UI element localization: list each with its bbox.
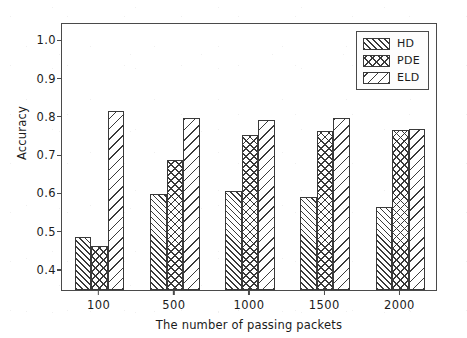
- bar-chart-figure: Accuracy 0.40.50.60.70.80.91.0 HDPDEELD …: [0, 0, 467, 338]
- legend-label: ELD: [397, 72, 419, 84]
- bar-eld-2000: [409, 129, 426, 290]
- bar-eld-1500: [333, 118, 350, 290]
- x-axis-tick-mark: [248, 291, 249, 295]
- bar-pde-1000: [242, 135, 259, 290]
- x-axis-tick-label: 100: [87, 298, 110, 312]
- x-axis-tick-mark: [173, 291, 174, 295]
- x-axis-tick: 1500: [309, 291, 340, 312]
- bar-hd-2000: [376, 207, 393, 290]
- legend-item-pde[interactable]: PDE: [363, 54, 420, 67]
- x-axis-tick-label: 2000: [384, 298, 415, 312]
- bar-hd-1000: [225, 191, 242, 290]
- legend-label: HD: [397, 38, 414, 50]
- y-axis-tick-group: 0.40.50.60.70.80.91.0: [0, 23, 61, 291]
- bar-hd-500: [150, 194, 167, 290]
- bar-pde-100: [91, 246, 108, 290]
- x-axis-tick: 500: [162, 291, 185, 312]
- x-axis-title: The number of passing packets: [61, 318, 437, 332]
- x-axis-tick-label: 500: [162, 298, 185, 312]
- x-axis-tick-label: 1000: [234, 298, 265, 312]
- x-axis-tick: 2000: [384, 291, 415, 312]
- x-axis-tick-mark: [324, 291, 325, 295]
- x-axis-tick-label: 1500: [309, 298, 340, 312]
- legend-item-eld[interactable]: ELD: [363, 71, 420, 84]
- bar-hd-1500: [300, 197, 317, 290]
- plot-area: HDPDEELD: [61, 23, 437, 291]
- x-axis-tick-mark: [98, 291, 99, 295]
- bar-hd-100: [75, 237, 92, 290]
- bar-eld-500: [183, 118, 200, 290]
- legend-item-hd[interactable]: HD: [363, 37, 420, 50]
- bar-eld-1000: [258, 120, 275, 290]
- legend-swatch-pde-icon: [363, 55, 390, 67]
- legend: HDPDEELD: [356, 31, 429, 90]
- bar-pde-2000: [392, 130, 409, 290]
- bar-pde-1500: [317, 131, 334, 290]
- x-axis-tick-mark: [399, 291, 400, 295]
- x-axis-tick: 100: [87, 291, 110, 312]
- bar-eld-100: [108, 111, 125, 290]
- legend-swatch-eld-icon: [363, 72, 390, 84]
- x-axis-tick-group: 100500100015002000: [61, 291, 437, 321]
- x-axis-tick: 1000: [234, 291, 265, 312]
- legend-swatch-hd-icon: [363, 38, 390, 50]
- legend-label: PDE: [397, 55, 420, 67]
- bar-pde-500: [167, 160, 184, 290]
